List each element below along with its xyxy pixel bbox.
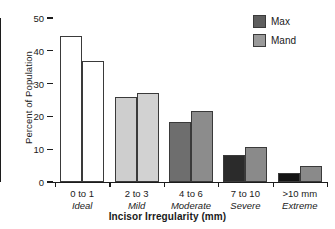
y-tick-label: 40 (0, 47, 44, 57)
bar-max-0 (60, 36, 82, 182)
legend: Max Mand (253, 13, 296, 51)
bar-mand-4 (300, 166, 322, 182)
y-tick-label: 0 (0, 178, 44, 188)
legend-swatch-max (253, 15, 266, 28)
legend-swatch-mand (253, 34, 266, 47)
y-tick-label: 50 (0, 14, 44, 24)
bar-max-3 (223, 155, 245, 182)
bar-chart: Percent of Population 01020304050 0 to 1… (0, 0, 335, 229)
y-tick-label: 30 (0, 80, 44, 90)
bar-max-1 (115, 97, 137, 182)
x-tick-mark (109, 182, 110, 187)
bar-mand-1 (137, 93, 159, 182)
x-tick-mark (327, 182, 328, 187)
legend-item-mand: Mand (253, 32, 296, 49)
x-group-label-4: >10 mmExtreme (255, 188, 335, 211)
legend-label-mand: Mand (271, 36, 296, 46)
y-tick-label: 10 (0, 145, 44, 155)
x-category-range: >10 mm (255, 188, 335, 200)
x-tick-mark (218, 182, 219, 187)
y-tick-label: 20 (0, 112, 44, 122)
bar-mand-0 (82, 61, 104, 182)
x-tick-mark (273, 182, 274, 187)
legend-item-max: Max (253, 13, 296, 30)
bar-mand-2 (191, 111, 213, 183)
bar-mand-3 (245, 147, 267, 182)
x-category-name: Extreme (255, 200, 335, 212)
x-axis-title: Incisor Irregularity (mm) (0, 211, 335, 222)
legend-label-max: Max (271, 17, 290, 27)
x-tick-mark (164, 182, 165, 187)
bar-max-4 (278, 173, 300, 183)
x-tick-mark (55, 182, 56, 187)
y-axis-line (0, 18, 1, 182)
bar-max-2 (169, 122, 191, 182)
